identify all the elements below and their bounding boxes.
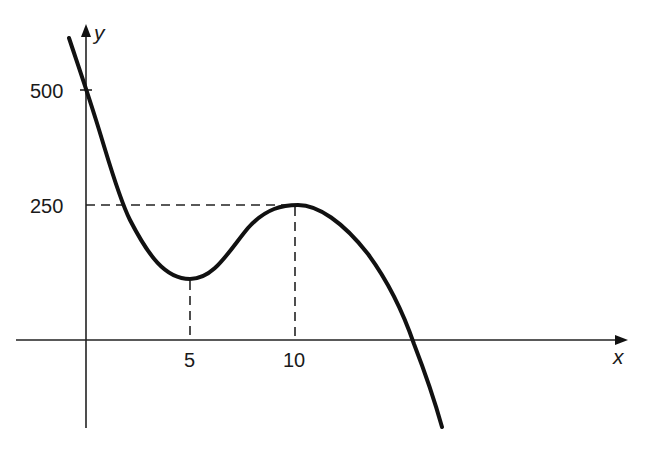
y-axis-label: y [92, 21, 106, 44]
cubic-graph: y x 500 250 5 10 [0, 0, 645, 451]
tick-label-500: 500 [30, 80, 63, 102]
tick-label-10: 10 [283, 349, 305, 371]
y-axis-arrow-icon [81, 24, 91, 37]
cubic-curve [69, 38, 442, 427]
tick-label-250: 250 [30, 195, 63, 217]
x-axis-arrow-icon [615, 335, 628, 345]
tick-label-5: 5 [184, 349, 195, 371]
x-axis-label: x [612, 345, 625, 368]
